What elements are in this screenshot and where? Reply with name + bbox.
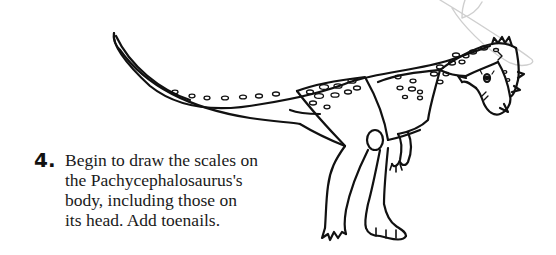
step-text-line: its head. Add toenails. bbox=[65, 210, 305, 230]
tutorial-page: 4. Begin to draw the scales on the Pachy… bbox=[0, 0, 556, 255]
guide-oval bbox=[440, 0, 533, 65]
step-text: Begin to draw the scales on the Pachycep… bbox=[65, 150, 305, 230]
step-number: 4. bbox=[34, 148, 56, 172]
step-text-line: Begin to draw the scales on bbox=[65, 150, 305, 170]
legs bbox=[322, 130, 406, 240]
tail bbox=[114, 33, 350, 124]
step-text-line: body, including those on bbox=[65, 190, 305, 210]
step-text-line: the Pachycephalosaurus's bbox=[65, 170, 305, 190]
